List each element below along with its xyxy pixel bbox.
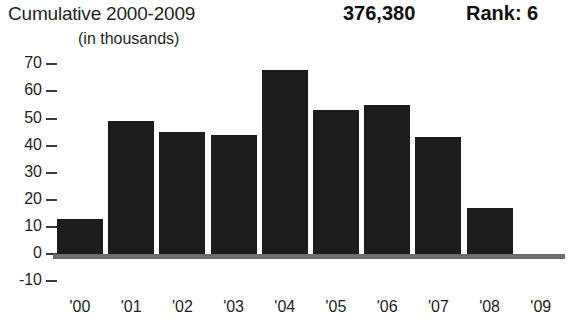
x-axis-tick-label: '09 (515, 298, 567, 316)
x-axis-tick-label: '04 (259, 298, 311, 316)
x-axis-tick-label: '06 (361, 298, 413, 316)
chart-bar (108, 121, 154, 254)
y-axis-tick-mark (46, 90, 57, 92)
y-axis-tick-mark (46, 172, 57, 174)
x-axis-tick-label: '08 (464, 298, 516, 316)
y-axis-tick-mark (46, 226, 57, 228)
y-axis-tick-mark (46, 145, 57, 147)
y-axis-tick-label: 10 (8, 218, 42, 234)
y-axis-tick-label: 70 (8, 55, 42, 71)
chart-bar (415, 137, 461, 254)
y-axis-tick-mark (46, 199, 57, 201)
y-axis-tick-label: 50 (8, 110, 42, 126)
x-axis-tick-label: '03 (208, 298, 260, 316)
bar-chart-plot: 706050403020100-10'00'01'02'03'04'05'06'… (0, 0, 569, 324)
chart-bar (57, 219, 103, 254)
y-axis-tick-mark (46, 280, 57, 282)
y-axis-tick-mark (46, 118, 57, 120)
x-axis-tick-label: '05 (310, 298, 362, 316)
x-axis-tick-label: '01 (105, 298, 157, 316)
y-axis-tick-label: 40 (8, 137, 42, 153)
y-axis-tick-label: 30 (8, 164, 42, 180)
chart-bar (262, 70, 308, 254)
chart-bar (159, 132, 205, 254)
chart-bar (211, 135, 257, 254)
zero-axis-line (53, 254, 565, 259)
x-axis-tick-label: '07 (412, 298, 464, 316)
y-axis-tick-mark (46, 63, 57, 65)
chart-bar (467, 208, 513, 254)
y-axis-tick-label: 20 (8, 191, 42, 207)
x-axis-tick-label: '02 (156, 298, 208, 316)
x-axis-tick-label: '00 (54, 298, 106, 316)
chart-bar (313, 110, 359, 254)
chart-page: Cumulative 2000-2009 (in thousands) 376,… (0, 0, 569, 324)
y-axis-tick-label: 0 (8, 245, 42, 261)
chart-bar (364, 105, 410, 254)
y-axis-tick-label: 60 (8, 82, 42, 98)
y-axis-tick-label: -10 (8, 272, 42, 288)
